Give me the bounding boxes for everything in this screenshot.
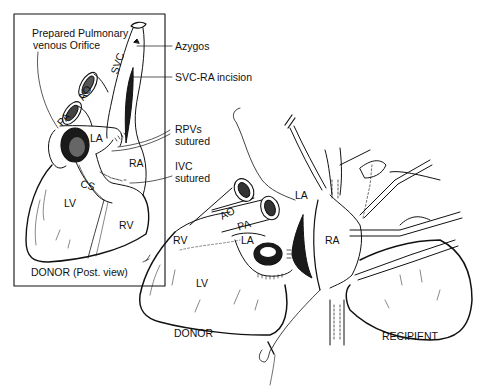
inset-caption: DONOR (Post. view) bbox=[31, 267, 128, 278]
inset-rv-label: RV bbox=[119, 220, 133, 231]
recipient-caption: RECIPIENT bbox=[382, 331, 438, 342]
donor-lv-label: LV bbox=[196, 278, 208, 289]
donor-la-label: LA bbox=[241, 235, 254, 246]
inset-la-label: LA bbox=[90, 133, 103, 144]
recipient-la-label: LA bbox=[295, 190, 308, 201]
ivc-sutured-label-line2: sutured bbox=[175, 173, 210, 184]
recipient-ra-label: RA bbox=[325, 235, 340, 246]
azygos-label: Azygos bbox=[175, 41, 209, 52]
svc-ra-incision-label: SVC-RA incision bbox=[175, 72, 252, 83]
inset-ra-label: RA bbox=[129, 158, 144, 169]
pulmonary-orifice-label-line2: venous Orifice bbox=[33, 40, 100, 51]
donor-caption: DONOR bbox=[174, 328, 213, 339]
heart-transplant-diagram: Prepared Pulmonary venous Orifice SVC Az… bbox=[0, 0, 481, 390]
pulmonary-orifice-label-line1: Prepared Pulmonary bbox=[32, 28, 128, 39]
donor-rv-label: RV bbox=[173, 235, 187, 246]
inset-lv-label: LV bbox=[64, 198, 76, 209]
rpvs-sutured-label-line1: RPVs bbox=[175, 124, 202, 135]
rpvs-sutured-label-line2: sutured bbox=[175, 136, 210, 147]
ivc-sutured-label-line1: IVC bbox=[175, 161, 193, 172]
